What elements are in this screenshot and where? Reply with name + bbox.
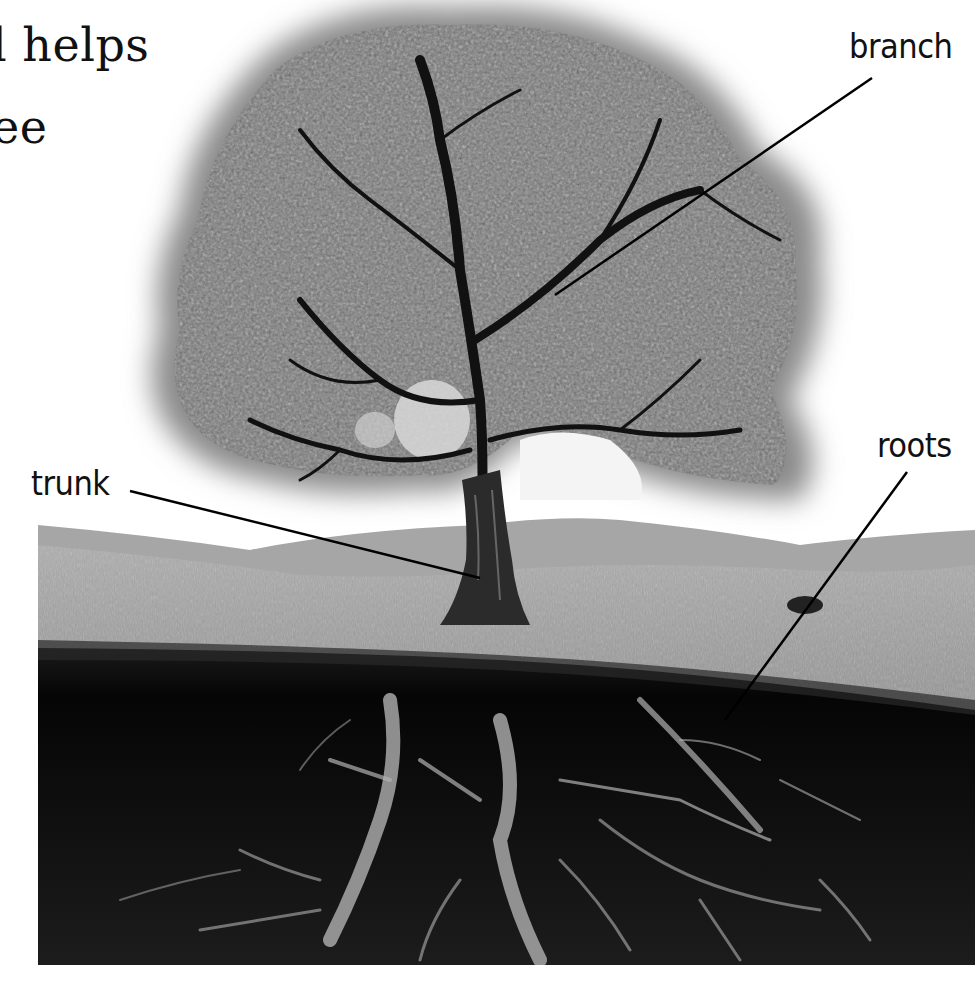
field-bush <box>787 596 823 614</box>
label-branch: branch <box>849 29 952 63</box>
label-trunk: trunk <box>31 466 110 500</box>
label-roots: roots <box>877 428 952 462</box>
tree-photo <box>0 0 977 985</box>
